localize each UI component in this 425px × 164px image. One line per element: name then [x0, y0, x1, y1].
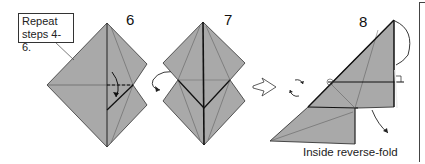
step-number-8: 8 — [359, 13, 367, 30]
right-angle-marker-icon — [396, 76, 401, 82]
page-side-border — [419, 2, 425, 162]
step-8-caption: Inside reverse-fold — [303, 146, 398, 158]
next-step-arrow-icon — [253, 78, 276, 96]
fold-arrow-icon-top — [395, 21, 410, 65]
origami-diagram: Repeat steps 4-6. 6 7 8 Inside reverse-f… — [0, 0, 425, 164]
step-number-6: 6 — [126, 11, 134, 28]
repeat-steps-callout: Repeat steps 4-6. — [18, 13, 74, 43]
callout-line-2: steps 4-6. — [22, 28, 70, 54]
rotate-icon — [289, 80, 304, 96]
step-8-model — [270, 20, 410, 144]
step-number-7: 7 — [224, 11, 232, 28]
step-7-model — [163, 22, 245, 145]
callout-line-1: Repeat — [22, 15, 70, 28]
